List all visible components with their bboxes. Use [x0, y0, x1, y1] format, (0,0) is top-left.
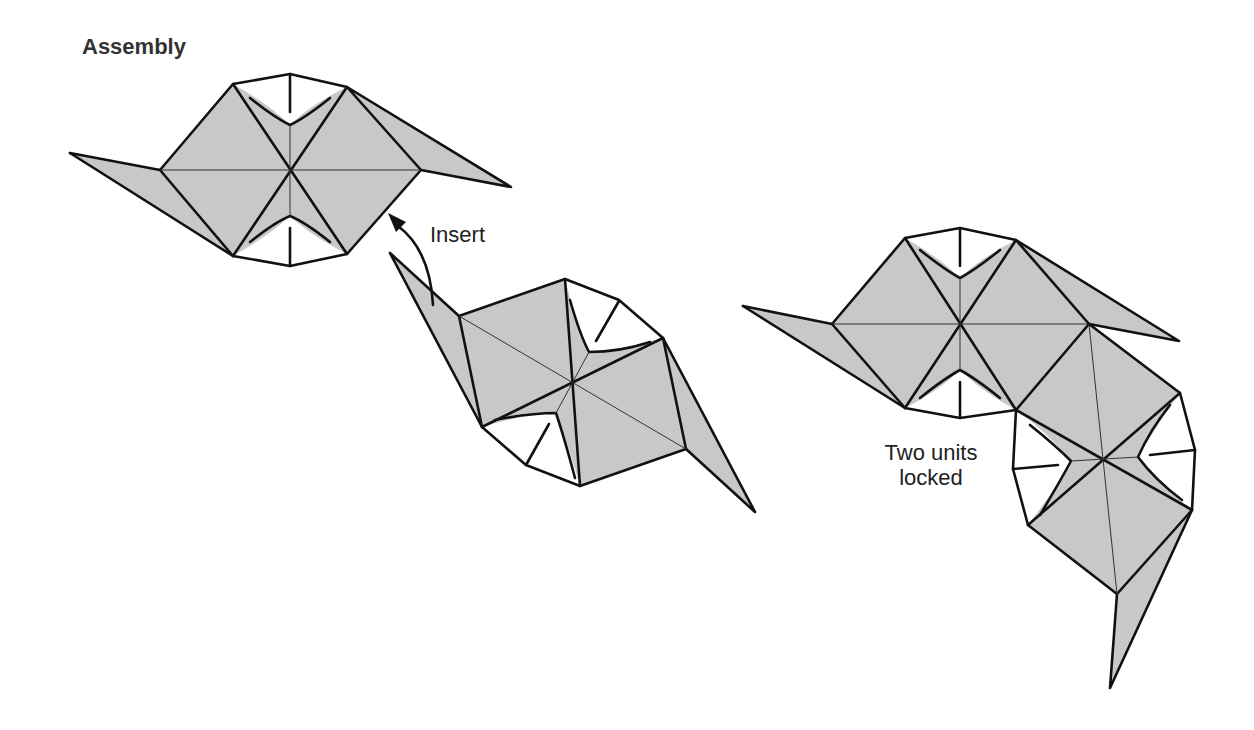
locked-label-line1: Two units [871, 440, 991, 465]
locked-label: Two units locked [871, 440, 991, 491]
locked-label-line2: locked [871, 465, 991, 490]
unit-2 [390, 253, 755, 512]
origami-assembly-diagram [0, 0, 1254, 730]
insert-label: Insert [430, 222, 485, 247]
